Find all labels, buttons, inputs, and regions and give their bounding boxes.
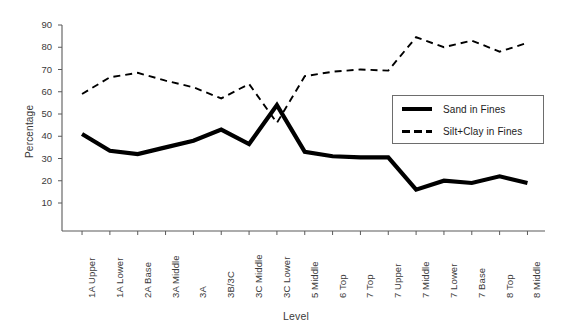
y-axis-tick-label: 20 — [28, 175, 52, 186]
x-axis-tick-label: 7 Lower — [448, 264, 459, 299]
y-axis-tick-label: 10 — [28, 197, 52, 208]
x-axis-tick-label: 5 Middle — [309, 261, 320, 298]
legend-item-silt-clay-in-fines: Silt+Clay in Fines — [402, 124, 522, 138]
x-axis-tick-label: 3A — [197, 286, 208, 298]
legend-label-silt-clay-in-fines: Silt+Clay in Fines — [443, 126, 522, 137]
y-axis-tick-label: 50 — [28, 108, 52, 119]
y-axis-tick-label: 70 — [28, 64, 52, 75]
y-axis-ticks — [58, 25, 62, 203]
y-axis-tick-label: 80 — [28, 41, 52, 52]
x-axis-tick-label: 3C Lower — [281, 257, 292, 298]
chart-legend: Sand in Fines Silt+Clay in Fines — [392, 95, 544, 144]
y-axis-tick-label: 90 — [28, 19, 52, 30]
legend-item-sand-in-fines: Sand in Fines — [402, 102, 505, 116]
x-axis-tick-label: 2A Base — [142, 262, 153, 298]
x-axis-tick-label: 8 Middle — [531, 261, 542, 298]
x-axis-tick-label: 7 Base — [476, 268, 487, 298]
x-axis-title: Level — [283, 310, 309, 322]
x-axis-tick-label: 6 Top — [337, 274, 348, 298]
x-axis-tick-label: 3A Middle — [170, 255, 181, 298]
x-axis-tick-label: 7 Middle — [420, 261, 431, 298]
legend-swatch-solid-line — [402, 103, 432, 115]
x-axis-tick-label: 1A Upper — [86, 258, 97, 298]
y-axis-tick-label: 40 — [28, 130, 52, 141]
chart-figure: Percentage Level 102030405060708090 1A U… — [0, 0, 562, 334]
legend-label-sand-in-fines: Sand in Fines — [443, 104, 505, 115]
x-axis-tick-label: 3B/3C — [225, 271, 236, 298]
x-axis-tick-label: 7 Top — [364, 274, 375, 298]
y-axis-tick-label: 30 — [28, 153, 52, 164]
x-axis-tick-label: 7 Upper — [392, 264, 403, 299]
x-axis-ticks — [82, 231, 527, 235]
legend-swatch-dashed-line — [402, 125, 432, 137]
y-axis-tick-label: 60 — [28, 86, 52, 97]
x-axis-tick-label: 1A Lower — [114, 258, 125, 298]
x-axis-tick-label: 8 Top — [504, 274, 515, 298]
x-axis-tick-label: 3C Middle — [253, 254, 264, 298]
